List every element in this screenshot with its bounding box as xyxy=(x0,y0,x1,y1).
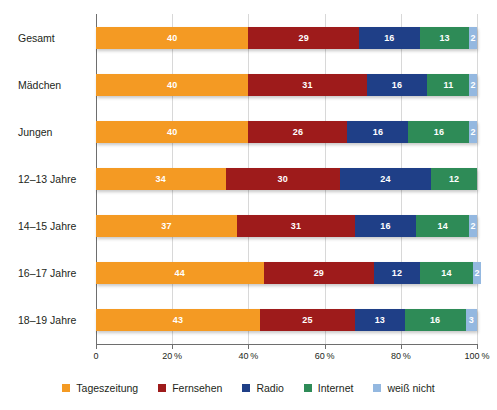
bar-segment: 43 xyxy=(96,309,260,331)
legend-label: Fernsehen xyxy=(172,382,222,394)
bar-row: 432513163 xyxy=(96,309,477,331)
bar-segment: 31 xyxy=(248,74,366,96)
bar-value-label: 16 xyxy=(380,221,390,231)
bar-value-label: 29 xyxy=(298,33,308,43)
category-label: Mädchen xyxy=(0,74,80,96)
stacked-bar: 402916132 xyxy=(96,27,477,49)
axis-tick xyxy=(325,344,326,349)
axis-tick xyxy=(248,344,249,349)
axis-tick-label: 80 % xyxy=(391,351,411,361)
bar-row: 402616162 xyxy=(96,121,477,143)
bar-value-label: 29 xyxy=(314,268,324,278)
bar-segment: 24 xyxy=(340,168,431,190)
bar-segment: 29 xyxy=(248,27,358,49)
axis-tick xyxy=(477,344,478,349)
value-axis: 020 %40 %60 %80 %100 % xyxy=(96,344,477,366)
bar-value-label: 14 xyxy=(437,221,447,231)
bar-value-label: 37 xyxy=(161,221,171,231)
category-label: Jungen xyxy=(0,121,80,143)
bar-value-label: 40 xyxy=(167,33,177,43)
bar-segment: 16 xyxy=(367,74,428,96)
bar-value-label: 16 xyxy=(384,33,394,43)
legend-swatch-icon xyxy=(373,384,381,392)
bar-value-label: 26 xyxy=(293,127,303,137)
bar-value-label: 40 xyxy=(167,80,177,90)
axis-tick-label: 20 % xyxy=(162,351,182,361)
bar-value-label: 43 xyxy=(173,315,183,325)
legend-item[interactable]: Fernsehen xyxy=(158,382,222,394)
legend-item[interactable]: Radio xyxy=(242,382,283,394)
legend-label: Tageszeitung xyxy=(76,382,138,394)
bar-segment: 2 xyxy=(469,27,477,49)
legend-item[interactable]: Internet xyxy=(304,382,354,394)
bar-segment: 16 xyxy=(359,27,420,49)
legend-item[interactable]: weiß nicht xyxy=(373,382,434,394)
axis-tick xyxy=(96,344,97,349)
bar-segment: 16 xyxy=(405,309,466,331)
bar-segment: 40 xyxy=(96,74,248,96)
bar-value-label: 16 xyxy=(373,127,383,137)
bar-value-label: 31 xyxy=(302,80,312,90)
bar-value-label: 2 xyxy=(474,268,479,278)
bar-segment: 44 xyxy=(96,262,264,284)
stacked-bar-chart: GesamtMädchenJungen12–13 Jahre14–15 Jahr… xyxy=(0,0,497,410)
bar-value-label: 31 xyxy=(291,221,301,231)
bar-rows: 4029161324031161124026161623430241237311… xyxy=(96,14,477,344)
axis-tick-label: 40 % xyxy=(238,351,258,361)
bar-segment: 37 xyxy=(96,215,237,237)
bar-segment: 13 xyxy=(355,309,405,331)
bar-segment: 12 xyxy=(374,262,420,284)
bar-segment: 12 xyxy=(431,168,477,190)
bar-value-label: 2 xyxy=(471,80,476,90)
legend-label: Radio xyxy=(256,382,283,394)
legend-item[interactable]: Tageszeitung xyxy=(62,382,138,394)
legend-label: Internet xyxy=(318,382,354,394)
category-label: 16–17 Jahre xyxy=(0,262,80,284)
bar-segment: 16 xyxy=(347,121,408,143)
bar-segment: 2 xyxy=(473,262,481,284)
bar-value-label: 16 xyxy=(434,127,444,137)
bar-value-label: 13 xyxy=(375,315,385,325)
bar-segment: 31 xyxy=(237,215,355,237)
bar-segment: 13 xyxy=(420,27,470,49)
axis-tick-label: 100 % xyxy=(465,351,490,361)
bar-value-label: 30 xyxy=(277,174,287,184)
axis-line xyxy=(96,344,477,345)
axis-tick-label: 60 % xyxy=(315,351,335,361)
bar-segment: 2 xyxy=(469,121,477,143)
bar-segment: 30 xyxy=(226,168,340,190)
stacked-bar: 402616162 xyxy=(96,121,477,143)
stacked-bar: 442912142 xyxy=(96,262,477,284)
category-axis: GesamtMädchenJungen12–13 Jahre14–15 Jahr… xyxy=(0,14,92,344)
bar-value-label: 25 xyxy=(302,315,312,325)
bar-segment: 34 xyxy=(96,168,226,190)
bar-segment: 16 xyxy=(355,215,416,237)
plot-area: 4029161324031161124026161623430241237311… xyxy=(96,14,477,344)
bar-segment: 25 xyxy=(260,309,355,331)
bar-value-label: 2 xyxy=(471,127,476,137)
bar-value-label: 24 xyxy=(380,174,390,184)
axis-tick-label: 0 xyxy=(93,351,98,361)
bar-segment: 14 xyxy=(420,262,473,284)
legend-swatch-icon xyxy=(62,384,70,392)
bar-segment: 29 xyxy=(264,262,374,284)
category-label: 12–13 Jahre xyxy=(0,168,80,190)
bar-segment: 40 xyxy=(96,27,248,49)
bar-row: 403116112 xyxy=(96,74,477,96)
category-label: Gesamt xyxy=(0,27,80,49)
bar-segment: 3 xyxy=(466,309,477,331)
bar-value-label: 11 xyxy=(443,80,453,90)
bar-row: 34302412 xyxy=(96,168,477,190)
stacked-bar: 432513163 xyxy=(96,309,477,331)
bar-value-label: 13 xyxy=(439,33,449,43)
bar-value-label: 2 xyxy=(471,33,476,43)
bar-segment: 2 xyxy=(469,74,477,96)
bar-value-label: 3 xyxy=(469,315,474,325)
legend-label: weiß nicht xyxy=(387,382,434,394)
stacked-bar: 34302412 xyxy=(96,168,477,190)
bar-value-label: 16 xyxy=(392,80,402,90)
bar-value-label: 34 xyxy=(156,174,166,184)
bar-segment: 14 xyxy=(416,215,469,237)
bar-value-label: 2 xyxy=(471,221,476,231)
category-label: 18–19 Jahre xyxy=(0,309,80,331)
